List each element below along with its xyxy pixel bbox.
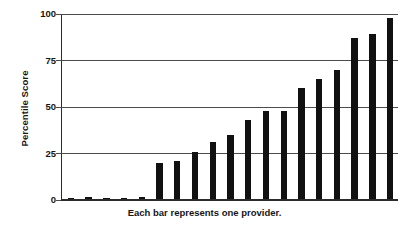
y-tick-label: 25 [30,149,56,159]
bar [263,111,269,200]
gridline-100 [61,14,398,15]
y-tick-label: 50 [30,102,56,112]
y-axis-title-text: Percentile Score [19,70,30,146]
bar [387,18,393,200]
bar-chart: Percentile Score 0255075100 Each bar rep… [0,0,409,236]
bar [334,70,340,200]
bar [351,38,357,200]
bar [174,161,180,200]
y-tick-mark-75 [56,60,61,61]
bar [245,120,251,200]
plot-area [61,14,398,200]
y-axis-tick-labels: 0255075100 [30,0,56,236]
bar [192,152,198,200]
gridline-50 [61,107,398,108]
y-tick-label: 75 [30,56,56,66]
bar [227,135,233,200]
bar [156,163,162,200]
chart-caption: Each bar represents one provider. [0,207,409,218]
bar [298,88,304,200]
x-axis-line [61,199,398,200]
bar [281,111,287,200]
y-tick-label: 100 [30,9,56,19]
y-tick-mark-25 [56,153,61,154]
y-tick-mark-50 [56,107,61,108]
bar [210,142,216,200]
bar [316,79,322,200]
y-tick-label: 0 [30,195,56,205]
bar [369,34,375,200]
y-tick-mark-100 [56,14,61,15]
gridline-75 [61,60,398,61]
